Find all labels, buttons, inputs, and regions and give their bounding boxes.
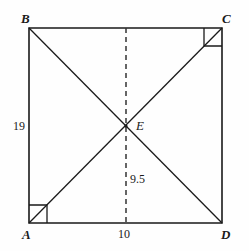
measurement-label-left-side: 19 (13, 120, 25, 132)
vertex-label-c: C (222, 12, 231, 25)
measurement-label-median: 9.5 (130, 173, 145, 185)
vertex-label-b: B (21, 12, 30, 25)
measurement-label-bottom-side: 10 (118, 228, 130, 240)
point-e-marker (124, 124, 127, 127)
point-label-e: E (136, 119, 144, 132)
figure-canvas (0, 0, 249, 251)
geometry-figure: B C A D E 19 9.5 10 (0, 0, 249, 251)
vertex-label-a: A (22, 228, 31, 241)
vertex-label-d: D (221, 228, 230, 241)
